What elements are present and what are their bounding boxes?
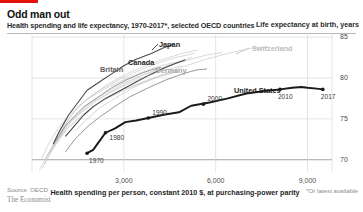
x-axis-title: Health spending per person, constant 201… bbox=[50, 188, 300, 197]
year-marker-label: 1990 bbox=[152, 109, 167, 116]
series-label-japan: Japan bbox=[159, 40, 180, 49]
series-label-canada: Canada bbox=[128, 58, 154, 67]
x-axis-tick-label: 6,000 bbox=[196, 177, 236, 184]
y-axis-tick-label: 70 bbox=[340, 156, 348, 163]
chart-page: Odd man out Health spending and life exp… bbox=[0, 0, 363, 212]
series-label-britain: Britain bbox=[100, 65, 123, 74]
footnote: *Or latest available bbox=[306, 187, 358, 194]
year-marker-label: 1970 bbox=[89, 157, 104, 164]
series-label-germany: Germany bbox=[155, 66, 187, 75]
y-axis-tick-label: 75 bbox=[340, 115, 348, 122]
series-label-united-states: United States bbox=[234, 86, 281, 95]
series-label-switzerland: Switzerland bbox=[252, 44, 293, 53]
year-marker-label: 1980 bbox=[109, 134, 124, 141]
y-axis-tick-label: 80 bbox=[340, 74, 348, 81]
year-marker-label: 2017 bbox=[321, 93, 336, 100]
source-note: Source: OECD bbox=[7, 186, 48, 193]
y-axis-tick-label: 85 bbox=[340, 33, 348, 40]
x-axis-tick-label: 3,000 bbox=[104, 177, 144, 184]
year-marker-label: 2000 bbox=[207, 95, 222, 102]
x-axis-tick-label: 9,000 bbox=[288, 177, 328, 184]
brand-wordmark: The Economist bbox=[7, 196, 51, 204]
